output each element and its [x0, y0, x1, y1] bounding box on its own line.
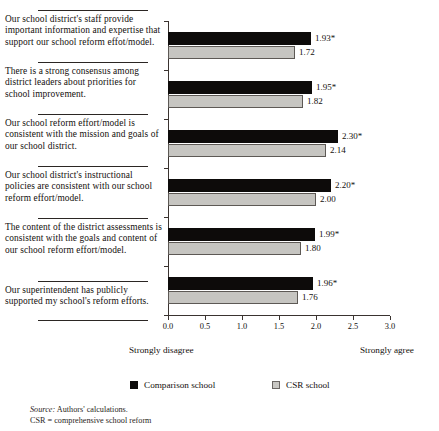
scale-anchor-high: Strongly agree — [360, 345, 414, 355]
bar-comparison-6 — [168, 277, 313, 290]
category-label-column: Our school district's staff provide impo… — [0, 0, 166, 320]
label-separator — [38, 10, 148, 11]
x-tick-label-1: 0.5 — [200, 322, 210, 331]
bar-value-csr-1: 1.72 — [299, 46, 315, 59]
label-separator — [38, 114, 148, 115]
label-separator — [38, 166, 148, 167]
scale-anchor-low: Strongly disagree — [129, 345, 194, 355]
bar-csr-1 — [168, 46, 295, 59]
bar-value-comparison-4: 2.20* — [335, 179, 355, 192]
legend-entry-comparison-school: Comparison school — [130, 380, 215, 390]
x-axis-tick — [316, 316, 317, 320]
x-axis-tick — [390, 316, 391, 320]
legend-entry-csr-school: CSR school — [272, 380, 330, 390]
source-line: Source: Authors' calculations. — [30, 405, 330, 416]
source-label: Source: — [30, 405, 55, 414]
bar-value-comparison-2: 1.95* — [316, 81, 336, 94]
label-separator — [38, 62, 148, 63]
x-axis-tick — [168, 316, 169, 320]
y-axis-line — [168, 21, 169, 316]
bar-value-csr-6: 1.76 — [302, 291, 318, 304]
y-axis-tick — [164, 70, 168, 71]
y-axis-tick — [164, 266, 168, 267]
x-axis-tick — [205, 316, 206, 320]
x-axis-tick — [242, 316, 243, 320]
bar-comparison-5 — [168, 228, 315, 241]
legend-label-csr-school: CSR school — [286, 380, 330, 390]
category-label-6: Our superintendent has publicly supporte… — [5, 285, 163, 308]
figure-root: Our school district's staff provide impo… — [0, 0, 439, 431]
legend-label-comparison-school: Comparison school — [144, 380, 215, 390]
x-axis-tick — [279, 316, 280, 320]
x-tick-label-4: 2.0 — [311, 322, 321, 331]
legend-swatch-csr-icon — [272, 381, 280, 389]
source-text: Authors' calculations. — [55, 405, 128, 414]
bar-csr-5 — [168, 242, 301, 255]
bar-csr-6 — [168, 291, 298, 304]
bar-value-csr-2: 1.82 — [307, 95, 323, 108]
bar-value-comparison-1: 1.93* — [315, 32, 335, 45]
bar-comparison-2 — [168, 81, 312, 94]
label-separator — [38, 281, 148, 282]
x-tick-label-6: 3.0 — [385, 322, 395, 331]
legend: Comparison school CSR school — [130, 380, 390, 394]
bar-value-comparison-6: 1.96* — [317, 277, 337, 290]
y-axis-tick — [164, 119, 168, 120]
x-tick-label-3: 1.5 — [274, 322, 284, 331]
x-tick-label-0: 0.0 — [163, 322, 173, 331]
category-label-4: Our school district's instructional poli… — [5, 170, 163, 204]
y-axis-tick — [164, 217, 168, 218]
source-note: Source: Authors' calculations. CSR = com… — [30, 405, 330, 426]
bar-value-csr-3: 2.14 — [330, 144, 346, 157]
bar-csr-3 — [168, 144, 326, 157]
plot-area: 0.0 0.5 1.0 1.5 2.0 2.5 3.0 1.93* 1.72 1… — [168, 21, 390, 316]
x-axis-tick — [353, 316, 354, 320]
category-label-2: There is a strong consensus among distri… — [5, 66, 163, 100]
bar-csr-2 — [168, 95, 303, 108]
bar-value-csr-5: 1.80 — [305, 242, 321, 255]
category-label-3: Our school reform effort/model is consis… — [5, 118, 163, 152]
bar-value-csr-4: 2.00 — [320, 193, 336, 206]
category-label-1: Our school district's staff provide impo… — [5, 14, 163, 48]
bar-comparison-4 — [168, 179, 331, 192]
x-tick-label-5: 2.5 — [348, 322, 358, 331]
abbreviation-line: CSR = comprehensive school reform — [30, 416, 330, 427]
legend-swatch-comparison-icon — [130, 381, 138, 389]
label-separator — [38, 320, 148, 321]
x-tick-label-2: 1.0 — [237, 322, 247, 331]
bar-value-comparison-5: 1.99* — [319, 228, 339, 241]
y-axis-tick — [164, 21, 168, 22]
bar-comparison-3 — [168, 130, 338, 143]
bar-csr-4 — [168, 193, 316, 206]
bar-comparison-1 — [168, 32, 311, 45]
label-separator — [38, 218, 148, 219]
category-label-5: The content of the district assessments … — [5, 222, 163, 256]
bar-value-comparison-3: 2.30* — [342, 130, 362, 143]
y-axis-tick — [164, 168, 168, 169]
